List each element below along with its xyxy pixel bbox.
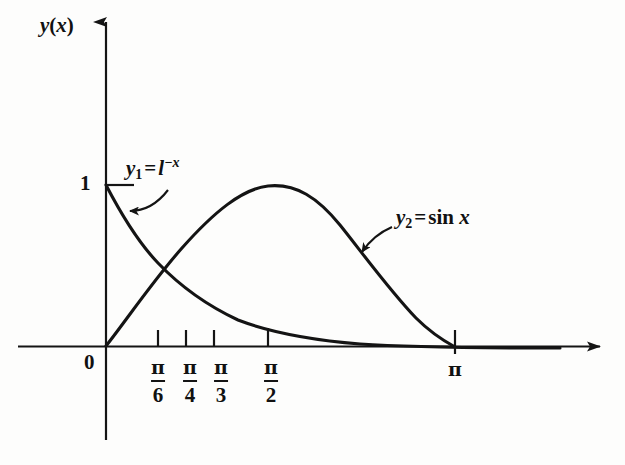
x-tick-label-origin: 0	[84, 352, 95, 373]
x-tick-label-pi-over-2: π 2	[264, 358, 278, 406]
x-tick-label-pi: π	[448, 358, 462, 380]
y1-callout-arrow	[130, 190, 168, 211]
x-tick-label-pi-over-6-den: 6	[151, 383, 165, 406]
curve-label-y2-var: y	[396, 205, 405, 229]
x-tick-label-pi-over-2-den: 2	[264, 383, 278, 406]
x-tick-label-pi-over-6-num: π	[151, 358, 165, 379]
x-tick-label-pi-over-4: π 4	[183, 358, 197, 406]
fraction-bar	[264, 380, 278, 382]
x-tick-label-pi-over-4-num: π	[183, 358, 197, 379]
curve-label-y1-exponent: −x	[164, 155, 179, 170]
x-tick-label-pi-over-3-num: π	[214, 358, 228, 379]
fraction-bar	[214, 380, 228, 382]
y2-callout-arrow	[362, 227, 392, 252]
fraction-bar	[151, 380, 165, 382]
y-tick-label-1: 1	[80, 173, 91, 194]
x-tick-label-pi-over-2-num: π	[264, 358, 278, 379]
x-tick-label-pi-over-3: π 3	[214, 358, 228, 406]
curve-label-y2: y2=sin x	[396, 207, 470, 231]
y-axis-label-x: x	[56, 13, 67, 37]
y-axis-label-y: y	[40, 13, 49, 37]
exponential-curve	[106, 185, 560, 348]
fraction-bar	[183, 380, 197, 382]
curve-label-y2-fn: sin	[428, 205, 454, 229]
figure-canvas: y(x) 1 0 y1=l−x y2=sin x π 6 π 4 π 3 π 2…	[0, 0, 625, 465]
curve-label-y2-arg: x	[459, 205, 470, 229]
plot-area	[0, 0, 625, 465]
curve-label-y1-var: y	[126, 156, 135, 180]
x-tick-label-pi-over-6: π 6	[151, 358, 165, 406]
x-tick-label-pi-over-4-den: 4	[183, 383, 197, 406]
y-axis-label-paren-close: )	[67, 13, 74, 37]
curve-label-y1: y1=l−x	[126, 156, 180, 182]
x-tick-label-pi-over-3-den: 3	[214, 383, 228, 406]
y-axis-label: y(x)	[40, 15, 74, 36]
curve-label-y1-eq: =	[142, 156, 158, 180]
curve-label-y2-eq: =	[412, 205, 428, 229]
